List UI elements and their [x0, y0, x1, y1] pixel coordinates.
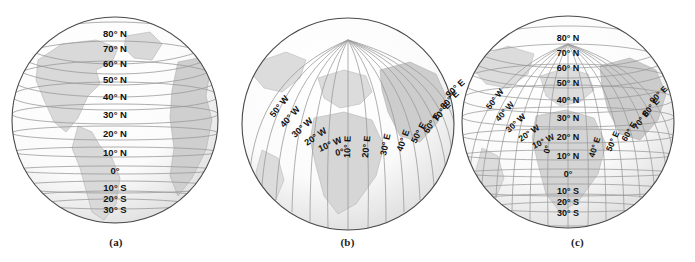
- globe-a-graphic: 80° N 70° N 60° N 50° N 40° N 30° N 20° …: [0, 0, 232, 232]
- panel-b-caption: (b): [230, 236, 465, 248]
- panel-c-caption: (c): [460, 236, 695, 248]
- latitude-label: 40° N: [103, 91, 127, 102]
- latitude-label: 30° N: [103, 109, 127, 120]
- latitude-label: 30° S: [103, 204, 126, 215]
- latitude-label: 20° N: [557, 132, 580, 142]
- latitude-label: 10° N: [557, 151, 580, 161]
- latitude-label: 10° N: [103, 147, 127, 158]
- latitude-label: 30° N: [557, 113, 580, 123]
- longitude-label: 10° E: [342, 136, 353, 158]
- globe-panel-b: 50° W 40° W 30° W 20° W 10° W 0° 10° E 2…: [230, 0, 465, 262]
- panel-a-caption: (a): [0, 236, 232, 248]
- globe-figure: 80° N 70° N 60° N 50° N 40° N 30° N 20° …: [0, 0, 695, 262]
- latitude-label: 70° N: [103, 43, 127, 54]
- globe-b-graphic: 50° W 40° W 30° W 20° W 10° W 0° 10° E 2…: [230, 0, 465, 232]
- latitude-label: 20° S: [103, 193, 126, 204]
- latitude-label: 0°: [110, 165, 119, 176]
- latitude-label: 70° N: [557, 48, 580, 58]
- latitude-label: 50° N: [103, 74, 127, 85]
- latitude-label: 10° S: [103, 182, 126, 193]
- latitude-label: 30° S: [557, 208, 579, 218]
- latitude-label: 80° N: [103, 28, 127, 39]
- latitude-label: 60° N: [103, 58, 127, 69]
- latitude-label: 60° N: [557, 63, 580, 73]
- latitude-label: 0°: [564, 169, 573, 179]
- globe-panel-a: 80° N 70° N 60° N 50° N 40° N 30° N 20° …: [0, 0, 232, 262]
- latitude-label: 20° N: [103, 128, 127, 139]
- globe-panel-c: 80° N 70° N 60° N 50° N 40° N 30° N 20° …: [460, 0, 695, 262]
- latitude-label: 80° N: [557, 33, 580, 43]
- latitude-label: 50° N: [557, 78, 580, 88]
- globe-c-graphic: 80° N 70° N 60° N 50° N 40° N 30° N 20° …: [460, 0, 695, 232]
- latitude-label: 20° S: [557, 197, 579, 207]
- latitude-label: 40° N: [557, 95, 580, 105]
- latitude-label: 10° S: [557, 186, 579, 196]
